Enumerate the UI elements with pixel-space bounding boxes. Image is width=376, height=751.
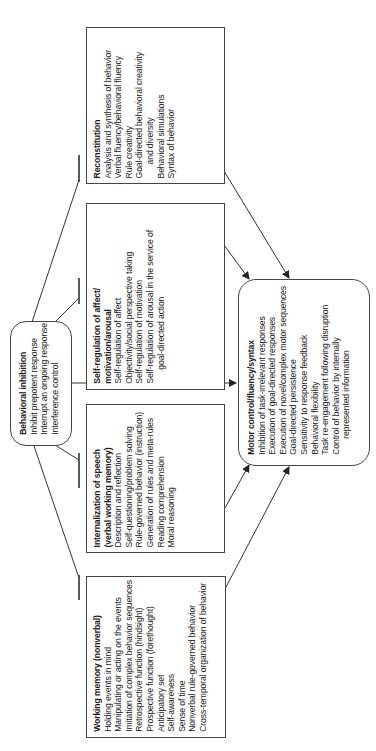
arrow-self-regulation-to-motor <box>224 245 249 279</box>
reconstitution-item: and diversity <box>145 50 156 178</box>
behavioral-inhibition-item: Interference control <box>50 323 61 435</box>
working-memory-item: Imitation of complex behavior sequences <box>124 580 135 732</box>
working-memory-item: Holding events in mind <box>103 580 114 732</box>
internalization-title: (verbal working memory) <box>103 412 114 547</box>
reconstitution-title: Reconstitution <box>92 50 103 178</box>
internalization-item: Generation of rules and meta-rules <box>145 412 156 547</box>
arrow-working-memory-to-motor <box>226 467 289 587</box>
behavioral-inhibition-item: Interrupt an ongoing response <box>39 323 50 435</box>
reconstitution-item: Analysis and synthesis of behavior <box>103 50 114 178</box>
working-memory-title: Working memory (nonverbal) <box>92 580 103 732</box>
motor-control-item: Execution of novel/complex motor sequenc… <box>278 286 289 455</box>
motor-control-item: Inhibition of task-irrelevant responses <box>257 286 268 455</box>
working-memory-item: Sense of time <box>177 580 188 732</box>
working-memory-item: Prospective function (forethought) <box>145 580 156 732</box>
inhibit-line-self-regulation <box>55 298 79 322</box>
self-regulation-item: Self-regulation of motivation <box>134 230 145 384</box>
self-regulation-title: Self-regulation of affect/ <box>92 230 103 384</box>
arrow-internalization-to-motor <box>225 465 249 508</box>
internalization-title: Internalization of speech <box>92 412 103 547</box>
self-regulation-item: Self-regulation of affect <box>113 230 124 384</box>
behavioral-inhibition-item: Inhibit prepotent response <box>29 323 40 435</box>
node-motor-control: Motor control/fluency/syntax Inhibition … <box>238 279 370 466</box>
motor-control-item: Execution of goal-directed responses <box>267 286 278 455</box>
inhibit-line-internalization <box>55 445 79 460</box>
self-regulation-item: Self-regulation of arousal in the servic… <box>145 230 156 384</box>
reconstitution-item: Behavioral simulations <box>156 50 167 178</box>
motor-control-item: Goal-directed persistence <box>288 286 299 455</box>
working-memory-item: Self-awareness <box>166 580 177 732</box>
internalization-item: Moral reasoning <box>166 412 177 547</box>
node-self-regulation: Self-regulation of affect/ motivation/ar… <box>86 203 225 390</box>
inhibit-line-reconstitution <box>32 180 79 322</box>
internalization-item: Description and reflection <box>113 412 124 547</box>
inhibit-line-working-memory <box>34 446 79 578</box>
internalization-item: Reading comprehension <box>156 412 167 547</box>
working-memory-item: Manipulating or acting on the events <box>113 580 124 732</box>
motor-control-item: Task re-engagement following disruption <box>320 286 331 455</box>
motor-control-item: Sensitivity to response feedback <box>299 286 310 455</box>
working-memory-item: Nonverbal rule-governed behavior <box>187 580 198 732</box>
self-regulation-item: goal-directed action <box>156 230 167 384</box>
reconstitution-item: Verbal fluency/behavioral fluency <box>113 50 124 178</box>
self-regulation-item: Objectivity/social perspective taking <box>124 230 135 384</box>
node-behavioral-inhibition: Behavioral inhibition Inhibit prepotent … <box>10 321 72 446</box>
node-reconstitution: Reconstitution Analysis and synthesis of… <box>86 27 225 184</box>
motor-control-item: Behavioral flexibility <box>310 286 321 455</box>
working-memory-item: Retrospective function (hindsight) <box>134 580 145 732</box>
behavioral-inhibition-title: Behavioral inhibition <box>18 323 29 435</box>
reconstitution-item: Rule creativity <box>124 50 135 178</box>
internalization-item: Self-questioning/problem solving <box>124 412 135 547</box>
node-working-memory: Working memory (nonverbal) Holding event… <box>86 576 226 738</box>
self-regulation-title: motivation/arousal <box>103 230 114 384</box>
arrow-reconstitution-to-motor <box>224 171 289 278</box>
reconstitution-item: Syntax of behavior <box>166 50 177 178</box>
internalization-item: Rule-governed behavior (instruction) <box>134 412 145 547</box>
working-memory-item: Cross-temporal organization of behavior <box>198 580 209 732</box>
reconstitution-item: Goal-directed behavioral creativity <box>134 50 145 178</box>
working-memory-item: Anticipatory set <box>156 580 167 732</box>
node-internalization-of-speech: Internalization of speech (verbal workin… <box>86 404 225 553</box>
motor-control-item: represented information <box>341 286 352 455</box>
motor-control-item: Control of behavior by internally <box>331 286 342 455</box>
motor-control-title: Motor control/fluency/syntax <box>246 286 257 455</box>
